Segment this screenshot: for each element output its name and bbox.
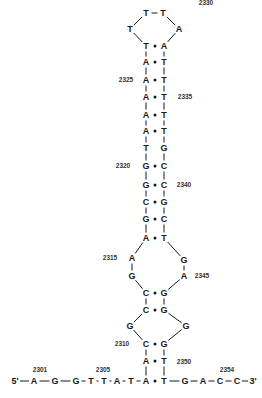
nucleotide-2316: A [143, 234, 150, 243]
nucleotide-2335: T [161, 93, 167, 102]
nucleotide-2344: G [180, 256, 187, 265]
nucleotide-2312: C [143, 306, 150, 315]
nucleotide-2309: A [143, 357, 150, 366]
nucleotide-2328: T [127, 25, 133, 34]
nucleotide-2346: G [160, 289, 167, 298]
base-pair-dot [154, 61, 157, 64]
position-label-2345: 2345 [195, 273, 209, 280]
nucleotide-2354: C [217, 377, 224, 386]
nucleotide-2306: A [114, 377, 121, 386]
position-label-2330: 2330 [199, 0, 213, 6]
nucleotide-2318: C [143, 198, 150, 207]
nucleotide-2319: G [142, 181, 149, 190]
nucleotide-2308: A [143, 377, 150, 386]
nucleotide-2305: T [101, 377, 107, 386]
base-pair-dot [154, 114, 157, 117]
nucleotide-2315: A [129, 254, 136, 263]
nucleotide-2337: T [161, 127, 167, 136]
backbone-bond [168, 313, 181, 323]
nucleotide-2352: G [181, 377, 188, 386]
backbone-bond [168, 33, 176, 42]
nucleotide-2303: G [72, 377, 79, 386]
nucleotide-2349: G [160, 340, 167, 349]
backbone-bond [134, 17, 142, 25]
backbone-bond [134, 330, 143, 340]
backbone-bond [168, 280, 180, 290]
nucleotide-2327: T [143, 42, 149, 51]
backbone-bond [135, 280, 142, 289]
nucleotide-2330: T [160, 9, 166, 18]
nucleotide-2333: T [161, 58, 167, 67]
base-pair-dot [154, 309, 157, 312]
nucleotide-2322: A [143, 127, 150, 136]
backbone-bond [167, 17, 175, 25]
backbone-bond [134, 314, 142, 322]
nucleotide-2332: A [161, 42, 168, 51]
position-label-2325: 2325 [119, 77, 133, 84]
base-pair-dot [154, 201, 157, 204]
nucleotide-2310: C [143, 340, 150, 349]
base-pair-dot [154, 380, 157, 383]
nucleotide-2343: T [161, 234, 167, 243]
nucleotide-2301: A [31, 377, 38, 386]
three-prime-end: 3' [249, 377, 256, 386]
base-pair-dot [154, 165, 157, 168]
base-pair-dot [154, 45, 157, 48]
base-pair-dot [154, 237, 157, 240]
base-pair-dot [154, 96, 157, 99]
backbone-bond [168, 329, 181, 340]
nucleotide-2324: A [143, 93, 150, 102]
nucleotide-2341: G [160, 198, 167, 207]
nucleotide-2334: T [161, 76, 167, 85]
nucleotide-2340: C [161, 181, 168, 190]
nucleotide-2339: C [161, 162, 168, 171]
base-pair-dot [154, 343, 157, 346]
position-label-2350: 2350 [177, 359, 191, 366]
position-label-2320: 2320 [116, 163, 130, 170]
nucleotide-2304: T [88, 377, 94, 386]
nucleotide-2342: C [161, 215, 168, 224]
nucleotide-2347: G [160, 306, 167, 315]
base-pair-dot [154, 292, 157, 295]
backbone-bond [134, 33, 142, 42]
secondary-structure-diagram: AGGTTATAACGCCGAAGCGGTAAAAATTTTAATTTTTGCC… [0, 0, 262, 398]
nucleotide-2313: C [143, 289, 150, 298]
base-pair-dot [154, 130, 157, 133]
nucleotide-2338: G [160, 144, 167, 153]
backbone-bond [135, 243, 143, 254]
position-label-2340: 2340 [177, 182, 191, 189]
nucleotide-2331: A [176, 25, 183, 34]
base-pair-dot [154, 79, 157, 82]
nucleotide-2302: G [51, 377, 58, 386]
nucleotide-2307: T [128, 377, 134, 386]
nucleotide-2351: T [161, 377, 167, 386]
base-pair-dot [154, 218, 157, 221]
base-pair-dot [154, 360, 157, 363]
nucleotide-2320: G [142, 162, 149, 171]
nucleotide-2348: G [182, 322, 189, 331]
nucleotide-2325: A [143, 76, 150, 85]
base-pair-dot [154, 184, 157, 187]
backbone-bond [168, 242, 181, 256]
nucleotide-2353: A [200, 377, 207, 386]
nucleotide-2345: A [181, 272, 188, 281]
five-prime-end: 5' [11, 377, 18, 386]
nucleotide-2336: T [161, 111, 167, 120]
nucleotide-2323: A [143, 111, 150, 120]
nucleotide-2317: G [142, 215, 149, 224]
position-label-2301: 2301 [33, 367, 47, 374]
nucleotide-2314: G [128, 272, 135, 281]
position-label-2354: 2354 [220, 367, 234, 374]
nucleotide-2321: T [143, 144, 149, 153]
position-label-2305: 2305 [96, 367, 110, 374]
position-label-2315: 2315 [103, 255, 117, 262]
nucleotide-2350: T [161, 357, 167, 366]
nucleotide-2311: G [126, 322, 133, 331]
nucleotide-2355: C [234, 377, 241, 386]
position-label-2335: 2335 [178, 94, 192, 101]
nucleotide-2326: A [143, 58, 150, 67]
position-label-2310: 2310 [115, 341, 129, 348]
backbone-lines [0, 0, 262, 398]
nucleotide-2329: T [143, 9, 149, 18]
